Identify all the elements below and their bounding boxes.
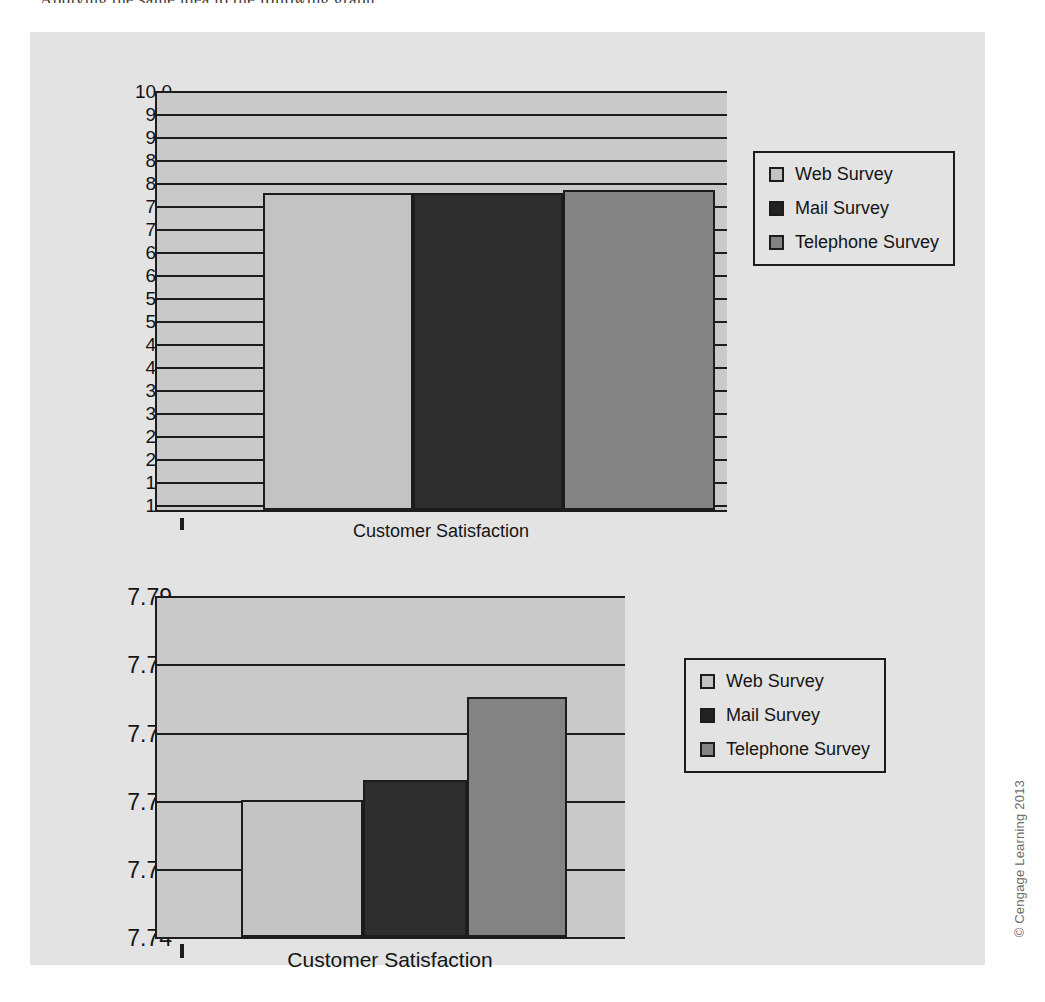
figure-card: 10.0 9.5 9.0 8.5 8.0 7.5 7.0 6.5 6.0 5.5… <box>30 32 985 965</box>
bottom-bar-chart: 7.79 7.78 7.77 7.76 7.75 7.74 <box>30 532 985 965</box>
bar-web-survey <box>241 800 363 937</box>
bar-mail-survey <box>363 780 467 937</box>
publisher-credit: © Cengage Learning 2013 <box>1012 780 1027 937</box>
bar-mail-survey <box>413 193 563 510</box>
gridline <box>157 596 625 598</box>
bar-telephone-survey <box>563 190 715 510</box>
legend-item-telephone-survey: Telephone Survey <box>700 739 868 760</box>
legend-swatch-icon <box>769 167 784 182</box>
bottom-chart-x-axis-title: Customer Satisfaction <box>155 948 625 972</box>
legend-label: Telephone Survey <box>726 739 870 760</box>
top-chart-plot-area <box>155 91 727 512</box>
legend-label: Web Survey <box>726 671 824 692</box>
bar-web-survey <box>263 193 413 510</box>
legend-item-telephone-survey: Telephone Survey <box>769 232 937 253</box>
bottom-chart-legend: Web Survey Mail Survey Telephone Survey <box>684 658 886 773</box>
legend-item-mail-survey: Mail Survey <box>700 705 868 726</box>
gridline <box>157 664 625 666</box>
gridline <box>157 91 727 93</box>
legend-label: Web Survey <box>795 164 893 185</box>
legend-label: Mail Survey <box>726 705 820 726</box>
top-chart-legend: Web Survey Mail Survey Telephone Survey <box>753 151 955 266</box>
legend-item-mail-survey: Mail Survey <box>769 198 937 219</box>
legend-swatch-icon <box>769 235 784 250</box>
top-bar-chart: 10.0 9.5 9.0 8.5 8.0 7.5 7.0 6.5 6.0 5.5… <box>30 32 985 532</box>
legend-label: Mail Survey <box>795 198 889 219</box>
bar-telephone-survey <box>467 697 567 937</box>
legend-swatch-icon <box>700 742 715 757</box>
legend-swatch-icon <box>769 201 784 216</box>
gridline <box>157 160 727 162</box>
gridline <box>157 183 727 185</box>
legend-label: Telephone Survey <box>795 232 939 253</box>
legend-swatch-icon <box>700 674 715 689</box>
legend-item-web-survey: Web Survey <box>769 164 937 185</box>
gridline <box>157 114 727 116</box>
legend-swatch-icon <box>700 708 715 723</box>
page-body-text-sliver: Applying the same idea to the following … <box>40 0 680 3</box>
legend-item-web-survey: Web Survey <box>700 671 868 692</box>
gridline <box>157 137 727 139</box>
bottom-chart-plot-area <box>155 596 625 939</box>
